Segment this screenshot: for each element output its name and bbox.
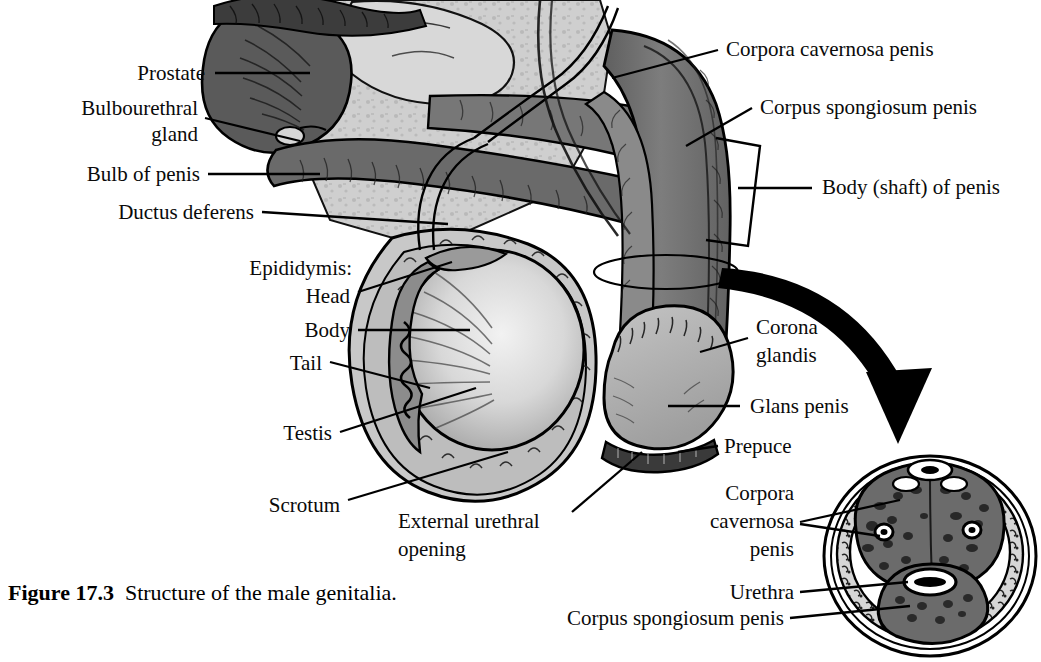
label-glans-penis: Glans penis <box>750 393 940 419</box>
label-epididymis: Epididymis: <box>0 255 352 281</box>
label-corona-glandis-line1: Corona <box>756 314 916 340</box>
label-bulbourethral-gland-line1: Bulbourethral <box>0 95 198 121</box>
label-body-shaft-of-penis: Body (shaft) of penis <box>822 174 1041 200</box>
label-inset-corpora-line3: penis <box>560 536 794 562</box>
label-ductus-deferens: Ductus deferens <box>0 199 254 225</box>
label-bulbourethral-gland-line2: gland <box>0 121 198 147</box>
inset-dorsal-artery-left <box>893 477 919 491</box>
cross-section-inset <box>824 456 1036 656</box>
label-prostate: Prostate <box>0 60 205 86</box>
label-inset-corpora-line1: Corpora <box>560 480 794 506</box>
glans-penis-organ <box>604 306 733 449</box>
label-epididymis-body: Body <box>0 317 350 343</box>
inset-urethra-slit <box>914 577 946 587</box>
testis-organ <box>400 250 584 450</box>
label-scrotum: Scrotum <box>0 492 340 518</box>
figure-caption-text: Structure of the male genitalia. <box>125 580 397 605</box>
figure-container: Prostate Bulbourethral gland Bulb of pen… <box>0 0 1041 662</box>
figure-caption: Figure 17.3 Structure of the male genita… <box>8 580 397 606</box>
label-epididymis-head: Head <box>0 283 350 309</box>
label-inset-urethra: Urethra <box>560 579 794 605</box>
label-prepuce: Prepuce <box>724 433 884 459</box>
label-inset-corpus-spongiosum: Corpus spongiosum penis <box>470 605 784 631</box>
label-epididymis-tail: Tail <box>0 350 322 376</box>
label-bulb-of-penis: Bulb of penis <box>0 161 200 187</box>
inset-dorsal-artery-right <box>941 477 967 491</box>
figure-number: Figure 17.3 <box>8 580 114 605</box>
label-inset-corpora-line2: cavernosa <box>560 508 794 534</box>
label-testis: Testis <box>0 420 332 446</box>
label-corpora-cavernosa-penis: Corpora cavernosa penis <box>726 36 1036 62</box>
label-corona-glandis-line2: glandis <box>756 342 916 368</box>
label-corpus-spongiosum-penis: Corpus spongiosum penis <box>760 94 1040 120</box>
